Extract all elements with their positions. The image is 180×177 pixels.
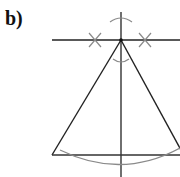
- base-arc: [60, 148, 180, 165]
- triangle-left-side: [52, 40, 121, 155]
- geometric-construction: [0, 0, 180, 177]
- triangle-right-side: [121, 40, 180, 152]
- apex-point: [119, 38, 123, 42]
